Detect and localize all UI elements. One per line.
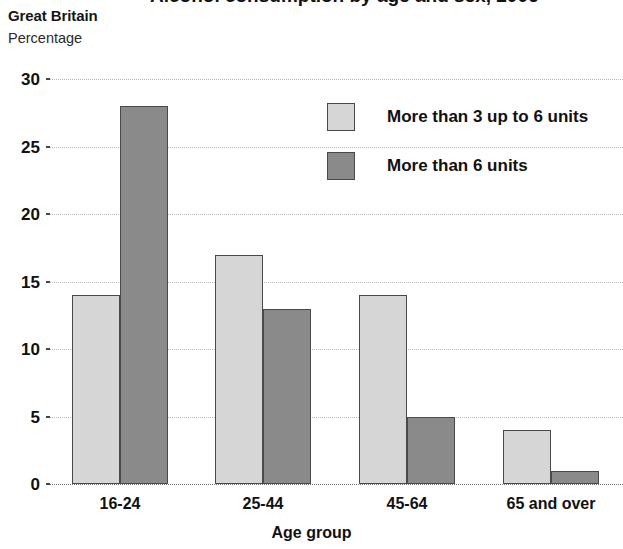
bar-25-44-series-2 — [263, 309, 311, 485]
gridline-0 — [46, 484, 623, 485]
x-axis-category-label: 65 and over — [477, 495, 623, 513]
y-axis-tick-label: 25 — [0, 139, 40, 156]
legend-item-more-than-3-up-to-6-units[interactable]: More than 3 up to 6 units — [327, 103, 588, 131]
gridline-30 — [46, 79, 623, 80]
bar-65-and-over-series-1 — [503, 430, 551, 484]
x-axis-title: Age group — [0, 524, 623, 542]
x-axis-category-label: 16-24 — [46, 495, 194, 513]
chart-plot-area: 302520151050 16-2425-4445-6465 and over … — [0, 0, 623, 549]
bar-16-24-series-2 — [120, 106, 168, 484]
bar-45-64-series-2 — [407, 417, 455, 485]
y-tick-10 — [46, 348, 50, 350]
y-axis-tick-label: 30 — [0, 71, 40, 88]
bar-16-24-series-1 — [72, 295, 120, 484]
y-tick-0 — [46, 483, 50, 485]
y-axis-tick-label: 20 — [0, 206, 40, 223]
y-tick-5 — [46, 416, 50, 418]
y-tick-30 — [46, 78, 50, 80]
x-axis-category-label: 45-64 — [333, 495, 481, 513]
y-tick-25 — [46, 146, 50, 148]
y-tick-20 — [46, 213, 50, 215]
legend-swatch-icon-dark — [327, 152, 355, 180]
legend-label-dark: More than 6 units — [387, 156, 528, 176]
y-axis-tick-label: 0 — [0, 476, 40, 493]
x-axis-category-label: 25-44 — [189, 495, 337, 513]
y-axis-tick-label: 10 — [0, 341, 40, 358]
legend-swatch-icon-light — [327, 103, 355, 131]
legend-item-more-than-6-units[interactable]: More than 6 units — [327, 152, 528, 180]
bar-45-64-series-1 — [359, 295, 407, 484]
bar-25-44-series-1 — [215, 255, 263, 485]
y-axis-tick-label: 15 — [0, 274, 40, 291]
y-tick-15 — [46, 281, 50, 283]
bar-65-and-over-series-2 — [551, 471, 599, 485]
legend-label-light: More than 3 up to 6 units — [387, 107, 588, 127]
y-axis-tick-label: 5 — [0, 409, 40, 426]
